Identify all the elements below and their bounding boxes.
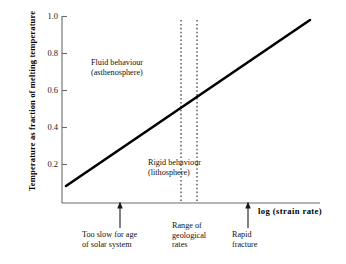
geological-rates-line-1: Range of (172, 221, 206, 231)
region-label-fluid-behaviour: Fluid behaviour (asthenosphere) (91, 58, 143, 77)
rapid-fracture-arrow (245, 202, 251, 229)
too-slow-line-1: Too slow for age (82, 230, 137, 240)
y-tick-label-1-0: 1.0 (30, 11, 58, 21)
region-fluid-line-1: Fluid behaviour (91, 58, 143, 68)
x-axis-title: log (strain rate) (258, 206, 322, 216)
annotation-rapid-fracture: Rapid fracture (232, 230, 257, 249)
region-rigid-line-1: Rigid behaviour (148, 158, 201, 168)
annotation-too-slow: Too slow for age of solar system (82, 230, 137, 249)
region-fluid-line-2: (asthenosphere) (91, 68, 143, 78)
rapid-fracture-line-1: Rapid (232, 230, 257, 240)
region-label-rigid-behaviour: Rigid behaviour (lithosphere) (148, 158, 201, 177)
too-slow-line-2: of solar system (82, 240, 137, 250)
y-tick-label-0-2: 0.2 (30, 159, 58, 169)
geological-rates-line-3: rates (172, 240, 206, 250)
y-tick-label-0-4: 0.4 (30, 122, 58, 132)
y-axis-title: Temperature as fraction of melting tempe… (27, 1, 37, 201)
rapid-fracture-line-2: fracture (232, 240, 257, 250)
y-tick-label-0-8: 0.8 (30, 48, 58, 58)
y-axis-ticks (62, 17, 67, 165)
y-tick-label-0-6: 0.6 (30, 85, 58, 95)
geological-rates-line-2: geological (172, 231, 206, 241)
too-slow-arrow (117, 202, 123, 229)
region-rigid-line-2: (lithosphere) (148, 168, 201, 178)
chart-figure: Temperature as fraction of melting tempe… (0, 0, 346, 264)
annotation-geological-rates: Range of geological rates (172, 221, 206, 250)
